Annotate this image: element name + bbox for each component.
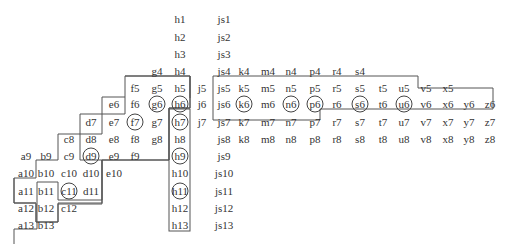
node-n7: n7: [286, 116, 297, 128]
node-js5: js5: [218, 82, 231, 94]
node-e9: e9: [109, 150, 119, 162]
circle-marker-s6: [352, 96, 369, 113]
node-x7: x7: [443, 116, 454, 128]
circle-marker-c11: [61, 183, 78, 200]
node-x6: x6: [443, 98, 454, 110]
node-v8: v8: [421, 133, 432, 145]
node-z8: z8: [485, 133, 495, 145]
node-e8: e8: [109, 133, 119, 145]
node-c9: c9: [64, 150, 74, 162]
node-g4: g4: [152, 65, 163, 77]
node-t7: t7: [379, 116, 388, 128]
circle-marker-n6: [283, 96, 300, 113]
node-js1: js1: [218, 13, 231, 25]
node-js4: js4: [218, 65, 231, 77]
node-r5: r5: [332, 82, 341, 94]
node-b12: b12: [38, 202, 55, 214]
node-h8: h8: [175, 133, 186, 145]
circle-marker-h6: [172, 96, 189, 113]
node-h10: h10: [172, 167, 189, 179]
node-z7: z7: [485, 116, 495, 128]
node-b9: b9: [41, 150, 52, 162]
node-m5: m5: [261, 82, 275, 94]
node-n5: n5: [286, 82, 297, 94]
node-d11: d11: [83, 185, 99, 197]
node-e10: e10: [106, 167, 122, 179]
node-d8: d8: [86, 133, 97, 145]
node-f8: f8: [130, 133, 139, 145]
node-v7: v7: [421, 116, 432, 128]
node-k8: k8: [239, 133, 250, 145]
circle-marker-h7: [172, 114, 189, 131]
node-f5: f5: [130, 82, 139, 94]
node-a12: a12: [18, 202, 34, 214]
node-h2: h2: [175, 31, 186, 43]
node-s4: s4: [355, 65, 365, 77]
node-v5: v5: [421, 82, 432, 94]
node-js7: js7: [218, 116, 231, 128]
node-p4: p4: [310, 65, 321, 77]
node-s5: s5: [355, 82, 365, 94]
node-u7: u7: [399, 116, 410, 128]
node-m8: m8: [261, 133, 275, 145]
node-p5: p5: [310, 82, 321, 94]
node-js3: js3: [218, 48, 231, 60]
node-n4: n4: [286, 65, 297, 77]
node-p7: p7: [310, 116, 321, 128]
node-r7: r7: [332, 116, 341, 128]
node-h5: h5: [175, 82, 186, 94]
node-u5: u5: [399, 82, 410, 94]
node-a9: a9: [21, 150, 31, 162]
node-a10: a10: [18, 167, 34, 179]
node-c8: c8: [64, 133, 74, 145]
node-c12: c12: [61, 202, 77, 214]
node-c10: c10: [61, 167, 77, 179]
node-a13: a13: [18, 219, 34, 231]
circle-marker-h11: [172, 183, 189, 200]
diagram-canvas: h1js1h2js2h3js3g4h4js4k4m4n4p4r4s4f5g5h5…: [0, 0, 506, 244]
node-m6: m6: [261, 98, 275, 110]
node-v6: v6: [421, 98, 432, 110]
node-z6: z6: [485, 98, 495, 110]
node-p8: p8: [310, 133, 321, 145]
node-js8: js8: [218, 133, 231, 145]
circle-marker-h9: [172, 148, 189, 165]
circle-marker-k6: [236, 96, 253, 113]
node-h3: h3: [175, 48, 186, 60]
node-d10: d10: [83, 167, 100, 179]
node-j7: j7: [198, 116, 207, 128]
node-r8: r8: [332, 133, 341, 145]
node-y8: y8: [464, 133, 475, 145]
node-s7: s7: [355, 116, 365, 128]
circle-marker-d9: [83, 148, 100, 165]
node-j5: j5: [198, 82, 207, 94]
node-f9: f9: [130, 150, 139, 162]
node-b10: b10: [38, 167, 55, 179]
node-y6: y6: [464, 98, 475, 110]
node-k7: k7: [239, 116, 250, 128]
node-g5: g5: [152, 82, 163, 94]
node-s8: s8: [355, 133, 365, 145]
node-r6: r6: [332, 98, 341, 110]
circle-marker-p6: [307, 96, 324, 113]
node-t8: t8: [379, 133, 388, 145]
node-f6: f6: [130, 98, 139, 110]
node-h1: h1: [175, 13, 186, 25]
node-h13: h13: [172, 219, 189, 231]
node-js13: js13: [215, 219, 233, 231]
node-js10: js10: [215, 167, 233, 179]
node-x8: x8: [443, 133, 454, 145]
node-r4: r4: [332, 65, 341, 77]
node-t6: t6: [379, 98, 388, 110]
node-g8: g8: [152, 133, 163, 145]
node-u8: u8: [399, 133, 410, 145]
node-m4: m4: [261, 65, 275, 77]
node-js9: js9: [218, 150, 231, 162]
node-js12: js12: [215, 202, 233, 214]
node-n8: n8: [286, 133, 297, 145]
node-e7: e7: [109, 116, 119, 128]
node-e6: e6: [109, 98, 119, 110]
node-y7: y7: [464, 116, 475, 128]
circle-marker-f7: [127, 114, 144, 131]
circle-marker-u6: [396, 96, 413, 113]
